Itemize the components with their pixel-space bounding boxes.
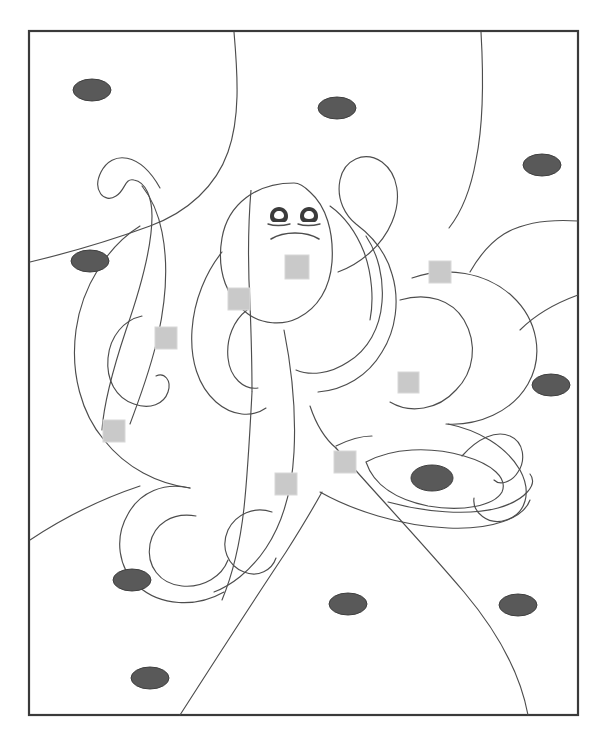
dark-ellipse-marker (131, 667, 169, 689)
light-square-marker (275, 473, 297, 495)
light-square-marker (285, 255, 309, 279)
octopus-line-art (0, 0, 607, 742)
light-square-marker (228, 288, 250, 310)
dark-ellipse-marker (73, 79, 111, 101)
light-square-marker (334, 451, 356, 473)
dark-ellipse-marker (532, 374, 570, 396)
light-square-marker (155, 327, 177, 349)
dark-ellipse-marker (113, 569, 151, 591)
dark-ellipse-marker (329, 593, 367, 615)
light-square-marker (103, 420, 125, 442)
dark-ellipse-marker (499, 594, 537, 616)
dark-ellipse-marker (318, 97, 356, 119)
light-square-marker (398, 372, 419, 393)
dark-ellipse-marker (71, 250, 109, 272)
dark-ellipse-marker (523, 154, 561, 176)
page-background (0, 0, 607, 742)
dark-ellipse-marker (411, 465, 453, 491)
coloring-page-canvas (0, 0, 607, 742)
light-square-marker (429, 261, 451, 283)
